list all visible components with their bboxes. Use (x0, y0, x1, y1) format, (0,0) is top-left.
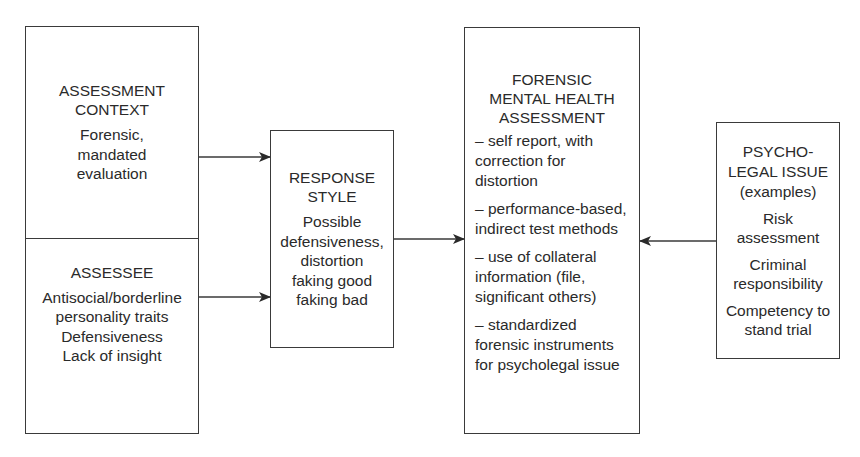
left-box: ASSESSMENT CONTEXT Forensic, mandated ev… (25, 26, 199, 434)
body-line: evaluation (77, 164, 148, 184)
example-line: Competency to (717, 301, 839, 321)
body-line: Antisocial/borderline (42, 288, 182, 308)
body-line: distortion (271, 251, 393, 271)
fmha-item-standardized: – standardized forensic instruments for … (475, 315, 639, 375)
body-line: faking good (271, 271, 393, 291)
title-line: STYLE (271, 187, 393, 206)
fmha-item-performance-based: – performance-based, indirect test metho… (475, 199, 639, 239)
title-line: ASSESSMENT (59, 81, 165, 100)
assessment-context-body: Forensic, mandated evaluation (77, 125, 148, 184)
response-style-title: RESPONSE STYLE (271, 168, 393, 206)
item-line: – standardized (475, 315, 639, 335)
body-line: personality traits (42, 307, 182, 327)
title-line: (examples) (717, 182, 839, 202)
item-line: indirect test methods (475, 219, 639, 239)
body-line: Defensiveness (42, 327, 182, 347)
fmha-box: FORENSIC MENTAL HEALTH ASSESSMENT – self… (464, 27, 640, 434)
example-line: assessment (717, 228, 839, 248)
example-line: Criminal (717, 255, 839, 275)
item-line: distortion (475, 171, 639, 191)
title-line: PSYCHO- (717, 142, 839, 162)
assessment-context-section: ASSESSMENT CONTEXT Forensic, mandated ev… (26, 27, 198, 239)
body-line: Lack of insight (42, 346, 182, 366)
example-line: responsibility (717, 274, 839, 294)
title-line: LEGAL ISSUE (717, 162, 839, 182)
item-line: significant others) (475, 287, 639, 307)
assessment-context-title: ASSESSMENT CONTEXT (59, 81, 165, 119)
example-line: Risk (717, 209, 839, 229)
body-line: Forensic, (77, 125, 148, 145)
assessee-title: ASSESSEE (71, 263, 154, 282)
body-line: Possible (271, 212, 393, 232)
psycholegal-issue-box: PSYCHO- LEGAL ISSUE (examples) Risk asse… (716, 122, 840, 359)
assessee-section: ASSESSEE Antisocial/borderline personali… (26, 239, 198, 389)
item-line: – use of collateral (475, 247, 639, 267)
fmha-item-collateral: – use of collateral information (file, s… (475, 247, 639, 307)
item-line: forensic instruments (475, 335, 639, 355)
item-line: for psycholegal issue (475, 355, 639, 375)
title-line: ASSESSEE (71, 263, 154, 282)
fmha-title: FORENSIC MENTAL HEALTH ASSESSMENT (465, 70, 639, 127)
assessee-body: Antisocial/borderline personality traits… (42, 288, 182, 366)
title-line: ASSESSMENT (465, 108, 639, 127)
body-line: defensiveness, (271, 232, 393, 252)
item-line: – self report, with (475, 131, 639, 151)
response-style-body: Possible defensiveness, distortion fakin… (271, 212, 393, 310)
item-line: correction for (475, 151, 639, 171)
body-line: faking bad (271, 290, 393, 310)
title-line: CONTEXT (59, 100, 165, 119)
psycholegal-example-risk: Risk assessment (717, 209, 839, 248)
psycholegal-example-competency: Competency to stand trial (717, 301, 839, 340)
body-line: mandated (77, 145, 148, 165)
title-line: RESPONSE (271, 168, 393, 187)
psycholegal-title: PSYCHO- LEGAL ISSUE (examples) (717, 142, 839, 202)
response-style-box: RESPONSE STYLE Possible defensiveness, d… (270, 130, 394, 348)
item-line: information (file, (475, 267, 639, 287)
fmha-item-self-report: – self report, with correction for disto… (475, 131, 639, 191)
title-line: FORENSIC (465, 70, 639, 89)
item-line: – performance-based, (475, 199, 639, 219)
psycholegal-example-criminal: Criminal responsibility (717, 255, 839, 294)
example-line: stand trial (717, 320, 839, 340)
title-line: MENTAL HEALTH (465, 89, 639, 108)
